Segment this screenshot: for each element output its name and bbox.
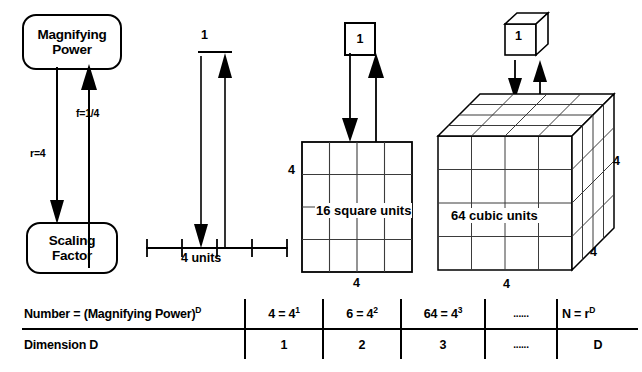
dimension-table: Number = (Magnifying Power)D 4 = 41 6 = … bbox=[22, 299, 638, 359]
square-panel-arrows bbox=[290, 50, 430, 145]
cell-number-3: 64 = 43 bbox=[401, 299, 485, 329]
cell-number-1: 4 = 41 bbox=[245, 299, 323, 329]
cell-number-general-exp: D bbox=[589, 305, 595, 315]
table-row: Number = (Magnifying Power)D 4 = 41 6 = … bbox=[22, 299, 638, 329]
cube-side-label-bottom: 4 bbox=[503, 277, 510, 291]
row-label-number-exp: D bbox=[195, 305, 201, 315]
cell-number-3-text: 64 = 4 bbox=[424, 308, 458, 322]
row-label-dimension: Dimension D bbox=[22, 329, 245, 359]
row-label-number: Number = (Magnifying Power)D bbox=[22, 299, 245, 329]
cube-side-label-right-lower: 4 bbox=[590, 245, 597, 259]
square-area-label: 16 square units bbox=[315, 203, 412, 218]
cell-dimension-2: 2 bbox=[323, 329, 401, 359]
cell-dimension-3: 3 bbox=[401, 329, 485, 359]
row-label-number-text: Number = (Magnifying Power) bbox=[24, 308, 195, 322]
line-length-label: 4 units bbox=[181, 251, 221, 265]
table-row: Dimension D 1 2 3 ...... D bbox=[22, 329, 638, 359]
cell-dimension-1: 1 bbox=[245, 329, 323, 359]
cell-number-1-exp: 1 bbox=[295, 305, 300, 315]
line-panel-graphics bbox=[140, 20, 300, 270]
unit-cube-label: 1 bbox=[515, 29, 522, 43]
summary-table: Number = (Magnifying Power)D 4 = 41 6 = … bbox=[22, 299, 622, 359]
cell-number-2-text: 6 = 4 bbox=[346, 308, 373, 322]
square-side-label-left: 4 bbox=[288, 163, 295, 177]
cell-number-general-text: N = r bbox=[562, 308, 589, 322]
unit-cube-icon bbox=[501, 10, 557, 62]
cell-number-1-text: 4 = 4 bbox=[268, 308, 295, 322]
cube-volume-label: 64 cubic units bbox=[450, 208, 539, 223]
cell-number-general: N = rD bbox=[557, 299, 638, 329]
cell-number-2-exp: 2 bbox=[373, 305, 378, 315]
cell-number-2: 6 = 42 bbox=[323, 299, 401, 329]
edge-label-ratio: r=4 bbox=[30, 147, 45, 159]
edge-label-fraction: f=1/4 bbox=[76, 107, 99, 119]
cell-number-ellipsis: ...... bbox=[485, 299, 557, 329]
cube-side-label-right-upper: 4 bbox=[613, 154, 620, 168]
square-side-label-bottom: 4 bbox=[353, 276, 360, 290]
cell-number-3-exp: 3 bbox=[458, 305, 463, 315]
figure-canvas: Magnifying Power Scaling Factor r=4 f=1/… bbox=[0, 0, 642, 372]
cell-dimension-general: D bbox=[557, 329, 638, 359]
cell-dimension-ellipsis: ...... bbox=[485, 329, 557, 359]
